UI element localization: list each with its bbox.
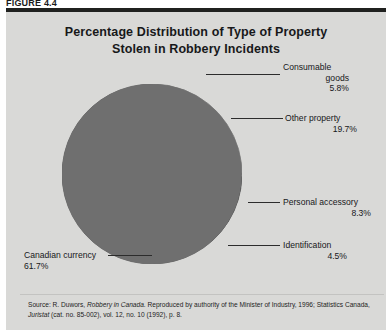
label-identification-value: 4.5% bbox=[283, 251, 347, 262]
leader-line-identification bbox=[228, 245, 280, 246]
label-identification-name: Identification bbox=[283, 240, 347, 251]
leader-line-other-property bbox=[231, 118, 283, 119]
label-personal-accessory: Personal accessory 8.3% bbox=[283, 197, 371, 218]
leader-line-canadian-currency bbox=[108, 255, 152, 256]
label-consumable-goods-name-line2: goods bbox=[283, 73, 349, 84]
source-suffix: (cat. no. 85-002), vol. 12, no. 10 (1992… bbox=[49, 311, 182, 318]
label-consumable-goods-name-line1: Consumable bbox=[283, 62, 349, 73]
label-other-property-value: 19.7% bbox=[285, 124, 357, 135]
chart-title-line-2: Stolen in Robbery Incidents bbox=[6, 41, 386, 58]
pie-base bbox=[62, 84, 242, 264]
source-middle: . Reproduced by authority of the Ministe… bbox=[144, 301, 370, 308]
leader-line-consumable bbox=[206, 74, 280, 75]
pie-chart bbox=[62, 84, 242, 264]
label-canadian-currency: Canadian currency 61.7% bbox=[24, 250, 96, 271]
source-divider bbox=[20, 294, 384, 295]
chart-panel: Percentage Distribution of Type of Prope… bbox=[6, 12, 386, 330]
chart-title-line-1: Percentage Distribution of Type of Prope… bbox=[65, 25, 327, 39]
source-title-robbery-in-canada: Robbery in Canada bbox=[87, 301, 144, 308]
figure-number-label: FIGURE 4.4 bbox=[6, 0, 57, 8]
label-canadian-currency-name: Canadian currency bbox=[24, 250, 96, 261]
label-canadian-currency-value: 61.7% bbox=[24, 261, 96, 272]
leader-line-personal-accessory bbox=[248, 202, 280, 203]
label-personal-accessory-value: 8.3% bbox=[283, 208, 371, 219]
label-personal-accessory-name: Personal accessory bbox=[283, 197, 371, 208]
source-title-juristat: Juristat bbox=[28, 311, 49, 318]
figure-container: FIGURE 4.4 Percentage Distribution of Ty… bbox=[0, 0, 392, 335]
source-note: Source: R. Duwors, Robbery in Canada. Re… bbox=[28, 300, 378, 319]
label-consumable-goods-value: 5.8% bbox=[283, 83, 349, 94]
source-prefix: Source: R. Duwors, bbox=[28, 301, 87, 308]
chart-title: Percentage Distribution of Type of Prope… bbox=[6, 24, 386, 58]
label-other-property: Other property 19.7% bbox=[285, 113, 357, 134]
label-consumable-goods: Consumable goods 5.8% bbox=[283, 62, 349, 94]
label-other-property-name: Other property bbox=[285, 113, 357, 124]
label-identification: Identification 4.5% bbox=[283, 240, 347, 261]
